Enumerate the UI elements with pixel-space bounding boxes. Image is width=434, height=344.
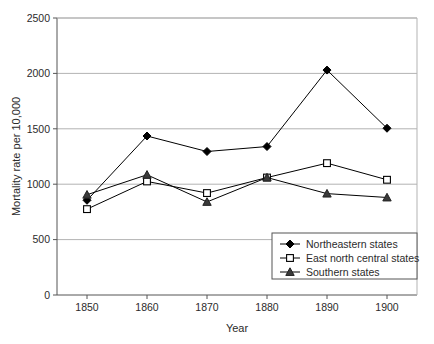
x-tick-label-1860: 1860: [135, 301, 159, 313]
marker-diamond: [203, 148, 211, 156]
series-northeastern-states: [83, 66, 391, 204]
marker-triangle: [143, 171, 151, 179]
chart-container: 0500100015002000250018501860187018801890…: [0, 0, 434, 344]
y-tick-label-2500: 2500: [27, 12, 51, 24]
y-tick-label-1000: 1000: [27, 178, 51, 190]
x-tick-label-1900: 1900: [375, 301, 399, 313]
x-tick-label-1870: 1870: [195, 301, 219, 313]
legend-label: Southern states: [306, 266, 380, 278]
y-tick-label-500: 500: [32, 233, 50, 245]
x-tick-label-1890: 1890: [315, 301, 339, 313]
series-line: [87, 163, 387, 209]
marker-triangle: [83, 191, 91, 199]
y-tick-label-0: 0: [44, 289, 50, 301]
marker-square: [144, 178, 151, 185]
legend: Northeastern statesEast north central st…: [272, 233, 419, 279]
marker-square: [287, 255, 294, 262]
x-tick-label-1850: 1850: [75, 301, 99, 313]
legend-label: Northeastern states: [306, 238, 398, 250]
x-tick-label-1880: 1880: [255, 301, 279, 313]
x-axis-title: Year: [226, 322, 249, 334]
marker-square: [204, 190, 211, 197]
legend-label: East north central states: [306, 252, 419, 264]
series-line: [87, 70, 387, 200]
series-east-north-central-states: [84, 160, 391, 213]
series-southern-states: [83, 171, 391, 206]
marker-triangle: [203, 198, 211, 206]
y-axis-title: Mortality rate per 10,000: [10, 97, 22, 216]
marker-square: [324, 160, 331, 167]
mortality-rate-line-chart: 0500100015002000250018501860187018801890…: [0, 0, 434, 344]
marker-square: [84, 206, 91, 213]
y-tick-label-2000: 2000: [27, 67, 51, 79]
marker-square: [384, 176, 391, 183]
y-tick-label-1500: 1500: [27, 123, 51, 135]
